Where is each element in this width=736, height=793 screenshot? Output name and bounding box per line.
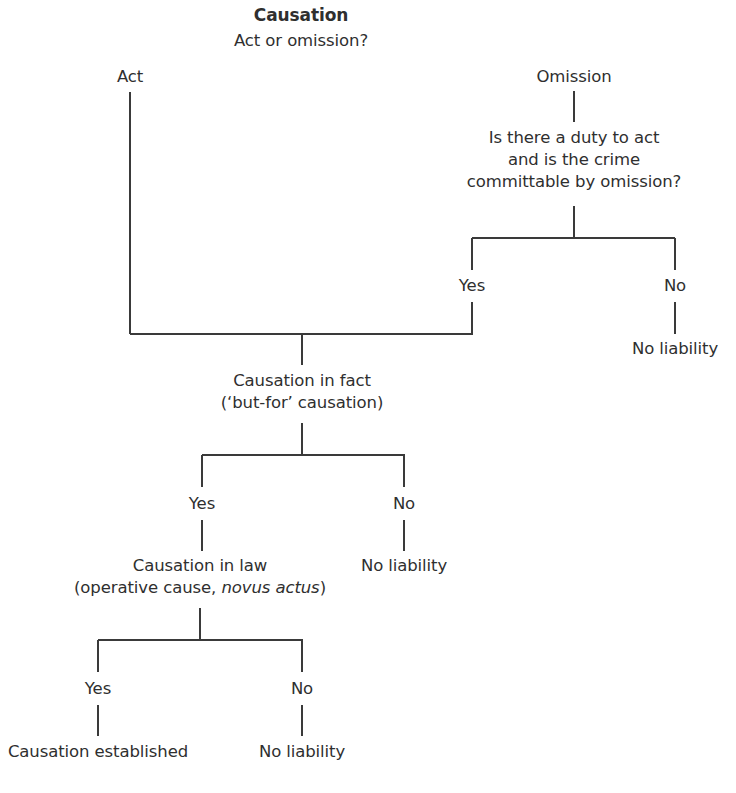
text: No <box>664 276 686 295</box>
law-stem-connector <box>199 608 201 640</box>
fact-stem-connector <box>301 423 303 455</box>
node-text-line: Act or omission? <box>234 30 368 52</box>
text: Causation established <box>8 742 188 761</box>
node-text-line: Causation <box>254 4 348 26</box>
node-omission-no: No <box>664 275 686 297</box>
node-title: Causation <box>254 4 348 26</box>
fact-no-up-connector <box>403 455 405 487</box>
law-no-down-connector <box>301 705 303 736</box>
node-text-line: (‘but-for’ causation) <box>221 392 384 414</box>
omission-yes-up-connector <box>471 238 473 270</box>
node-text-line: Yes <box>85 678 111 700</box>
text: Act or omission? <box>234 31 368 50</box>
text: Yes <box>459 276 485 295</box>
node-text-line: Yes <box>459 275 485 297</box>
text: No liability <box>259 742 345 761</box>
fact-yes-up-connector <box>201 455 203 487</box>
duty-stem-connector <box>573 206 575 238</box>
node-text-line: Omission <box>536 66 611 88</box>
node-omission: Omission <box>536 66 611 88</box>
text: No <box>291 679 313 698</box>
fact-no-down-connector <box>403 520 405 551</box>
text: (‘but-for’ causation) <box>221 393 384 412</box>
node-fact-no: No <box>393 493 415 515</box>
node-text-line: No <box>291 678 313 700</box>
node-causation-in-fact: Causation in fact(‘but-for’ causation) <box>221 370 384 414</box>
node-text-line: No liability <box>632 338 718 360</box>
node-text-line: Causation established <box>8 741 188 763</box>
text: (operative cause, <box>74 578 221 597</box>
text: Act <box>117 67 143 86</box>
law-split-connector <box>98 639 303 641</box>
node-text-line: Is there a duty to act <box>467 127 681 149</box>
text: Yes <box>85 679 111 698</box>
text: Is there a duty to act <box>489 128 660 147</box>
omission-yes-down-connector <box>471 302 473 334</box>
node-act: Act <box>117 66 143 88</box>
node-text-line: No liability <box>361 555 447 577</box>
node-text-line: Act <box>117 66 143 88</box>
node-text-line: (operative cause, novus actus) <box>74 577 326 599</box>
fact-yes-down-connector <box>201 520 203 551</box>
node-law-no: No <box>291 678 313 700</box>
node-omission-no-liability: No liability <box>632 338 718 360</box>
node-act-or-omission: Act or omission? <box>234 30 368 52</box>
text: Causation in fact <box>233 371 371 390</box>
node-duty-question: Is there a duty to actand is the crimeco… <box>467 127 681 193</box>
node-law-no-liability: No liability <box>259 741 345 763</box>
italic-text: novus actus <box>221 578 319 597</box>
text: No liability <box>632 339 718 358</box>
node-text-line: Yes <box>189 493 215 515</box>
law-yes-up-connector <box>97 640 99 672</box>
law-yes-down-connector <box>97 705 99 736</box>
text: Yes <box>189 494 215 513</box>
law-no-up-connector <box>301 640 303 672</box>
act-omission-join-connector <box>130 333 473 335</box>
node-fact-no-liability: No liability <box>361 555 447 577</box>
omission-stem-connector <box>573 91 575 122</box>
text: and is the crime <box>508 150 640 169</box>
act-stem-connector <box>129 92 131 334</box>
fact-split-connector <box>202 454 405 456</box>
node-law-yes: Yes <box>85 678 111 700</box>
node-causation-in-law: Causation in law(operative cause, novus … <box>74 555 326 599</box>
omission-no-up-connector <box>674 238 676 270</box>
duty-split-connector <box>472 237 675 239</box>
node-text-line: No <box>664 275 686 297</box>
node-fact-yes: Yes <box>189 493 215 515</box>
node-causation-established: Causation established <box>8 741 188 763</box>
text: ) <box>320 578 326 597</box>
node-text-line: Causation in fact <box>221 370 384 392</box>
text: No <box>393 494 415 513</box>
node-text-line: No <box>393 493 415 515</box>
text: Causation in law <box>133 556 268 575</box>
omission-no-down-connector <box>674 302 676 334</box>
node-text-line: committable by omission? <box>467 171 681 193</box>
text: No liability <box>361 556 447 575</box>
node-omission-yes: Yes <box>459 275 485 297</box>
causation-flowchart: CausationAct or omission?ActOmissionIs t… <box>0 0 736 793</box>
text: Causation <box>254 5 348 25</box>
text: committable by omission? <box>467 172 681 191</box>
join-stem-connector <box>301 334 303 365</box>
node-text-line: No liability <box>259 741 345 763</box>
text: Omission <box>536 67 611 86</box>
node-text-line: Causation in law <box>74 555 326 577</box>
node-text-line: and is the crime <box>467 149 681 171</box>
